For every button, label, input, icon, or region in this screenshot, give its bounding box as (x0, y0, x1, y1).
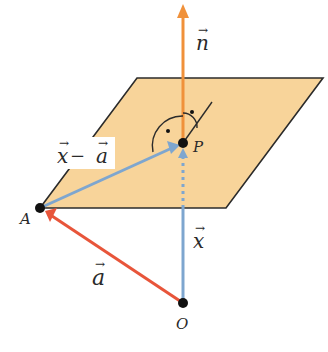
label-minus-op: − (70, 145, 85, 166)
normal-vector-arrowhead (177, 4, 189, 18)
arrow-over-x-left: → (59, 136, 69, 150)
vector-plane-diagram: A P O n → x → a → x → − a → (0, 0, 328, 352)
right-angle-dot-1 (190, 110, 194, 114)
right-angle-dot-2 (166, 129, 170, 133)
vector-a (52, 216, 183, 303)
arrow-over-a: → (95, 257, 105, 271)
point-p (178, 138, 188, 148)
arrow-over-n: → (198, 23, 208, 37)
arrow-over-x: → (195, 221, 205, 235)
point-a (35, 203, 45, 213)
label-p: P (192, 138, 204, 156)
label-o: O (176, 315, 188, 333)
arrow-over-a-right: → (98, 136, 108, 150)
label-a: A (18, 210, 31, 228)
point-o (178, 298, 188, 308)
